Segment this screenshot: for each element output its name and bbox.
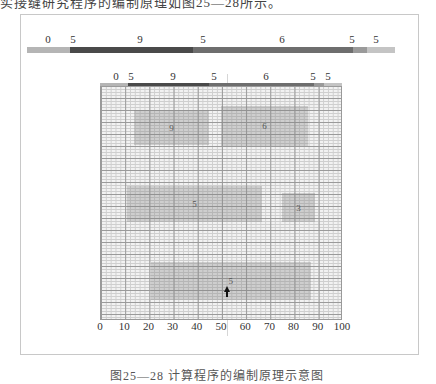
arrow-stem — [226, 291, 228, 297]
top-ruler-label: 5 — [349, 33, 355, 45]
top-ruler-label: 5 — [70, 33, 76, 45]
top-ruler-label: 5 — [373, 33, 379, 45]
grid-ruler-label: 9 — [170, 70, 176, 82]
block-label: 6 — [262, 121, 267, 131]
grid-ruler-label: 5 — [310, 70, 316, 82]
grid-ruler-segment — [128, 83, 209, 86]
ruler-segment — [27, 47, 70, 53]
grid-ruler-label: 5 — [128, 70, 134, 82]
x-tick-label: 20 — [143, 320, 154, 332]
x-tick-label: 30 — [167, 320, 178, 332]
top-ruler-label: 6 — [279, 33, 285, 45]
grid-ruler-segment — [314, 83, 323, 86]
x-tick-label: 70 — [264, 320, 275, 332]
grid-ruler-label: 0 — [113, 70, 119, 82]
x-tick-label: 0 — [97, 320, 103, 332]
grid-ruler-segment — [209, 83, 314, 86]
grid-ruler-label: 5 — [325, 70, 331, 82]
x-tick-label: 60 — [240, 320, 251, 332]
block-label: 9 — [169, 123, 174, 133]
ruler-segment — [70, 47, 193, 53]
ruler-segment — [353, 47, 367, 53]
x-tick-label: 100 — [334, 320, 351, 332]
x-tick-label: 40 — [191, 320, 202, 332]
block-label: 5 — [192, 199, 197, 209]
ruler-segment — [367, 47, 395, 53]
top-ruler-label: 5 — [200, 33, 206, 45]
grid-top-ruler — [100, 83, 342, 86]
grid-ruler-label: 6 — [263, 70, 269, 82]
grid-ruler-segment — [324, 83, 342, 86]
ruler-segment — [193, 47, 353, 53]
block-label: 5 — [228, 276, 233, 286]
x-tick-label: 50 — [216, 320, 227, 332]
grid-ruler-segment — [100, 83, 128, 86]
x-tick-label: 10 — [119, 320, 130, 332]
x-tick-label: 90 — [312, 320, 323, 332]
header-partial-text: 实接缝研究程序的编制原理如图25—28所示。 — [0, 0, 282, 11]
figure-caption: 图25—28 计算程序的编制原理示意图 — [110, 366, 324, 384]
grid-ruler-label: 5 — [211, 70, 217, 82]
x-tick-label: 80 — [288, 320, 299, 332]
top-ruler-label: 0 — [45, 33, 51, 45]
block-label: 3 — [296, 203, 301, 213]
top-ruler-label: 9 — [137, 33, 143, 45]
top-ruler — [27, 47, 395, 53]
